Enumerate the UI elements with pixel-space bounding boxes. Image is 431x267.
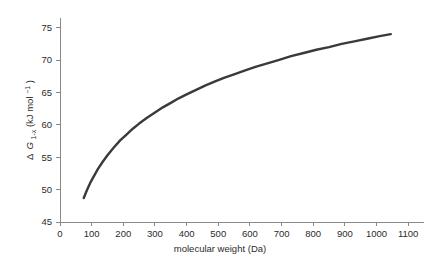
x-tick-label: 600 (242, 228, 258, 239)
x-tick-label: 700 (274, 228, 290, 239)
y-tick-label: 50 (41, 184, 52, 195)
x-tick-label: 400 (179, 228, 195, 239)
x-tick-label: 200 (115, 228, 131, 239)
x-tick-label: 500 (210, 228, 226, 239)
x-tick-label: 1000 (366, 228, 387, 239)
y-tick-label: 45 (41, 216, 52, 227)
y-axis-title-subscript: 1-x (30, 129, 37, 139)
chart-figure: 010020030040050060070080090010001100 455… (0, 0, 431, 267)
x-tick-label: 900 (337, 228, 353, 239)
y-axis-title-units: (kJ mol (24, 96, 35, 127)
y-tick-label: 70 (41, 54, 52, 65)
y-tick-label: 65 (41, 87, 52, 98)
x-axis-title: molecular weight (Da) (174, 243, 266, 254)
y-axis-title-symbol: G (24, 142, 35, 149)
x-tick-label: 800 (305, 228, 321, 239)
x-tick-label: 300 (147, 228, 163, 239)
y-tick-label: 75 (41, 22, 52, 33)
y-tick-label: 55 (41, 152, 52, 163)
y-axis-title-units-close: ) (24, 80, 35, 83)
x-tick-label: 1100 (398, 228, 418, 239)
x-tick-label: 0 (57, 228, 62, 239)
line-chart: 010020030040050060070080090010001100 455… (0, 0, 431, 267)
y-axis-title-superscript: −1 (24, 86, 31, 94)
y-tick-label: 60 (41, 119, 52, 130)
x-tick-label: 100 (84, 228, 100, 239)
y-axis-title-delta: Δ (24, 153, 35, 160)
